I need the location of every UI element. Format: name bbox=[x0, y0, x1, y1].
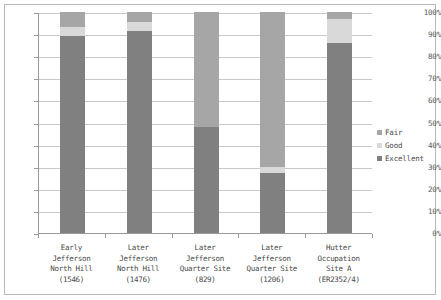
y-axis-tick-label: 90% bbox=[407, 31, 441, 39]
bar-segment-good bbox=[60, 27, 85, 36]
bar-stack bbox=[127, 12, 152, 233]
bar-segment-fair bbox=[327, 12, 352, 19]
bar-stack bbox=[194, 12, 219, 233]
legend-item[interactable]: Fair bbox=[377, 126, 435, 139]
y-axis-tick-label: 20% bbox=[407, 186, 441, 194]
y-axis-tick-label: 100% bbox=[407, 9, 441, 17]
x-axis-tick-mark bbox=[238, 234, 239, 238]
bar-segment-fair bbox=[127, 12, 152, 22]
chart-container: 100%90%80%70%60%50%40%30%20%10%0% Early … bbox=[0, 0, 441, 300]
x-axis-tick-mark bbox=[372, 234, 373, 238]
legend-swatch-icon bbox=[377, 130, 382, 135]
legend-swatch-icon bbox=[377, 156, 382, 161]
bar-segment-good bbox=[327, 19, 352, 43]
bar-segment-good bbox=[260, 167, 285, 174]
legend-label: Fair bbox=[385, 128, 402, 137]
bar-segment-excellent bbox=[60, 36, 85, 233]
bar-segment-fair bbox=[194, 12, 219, 127]
x-axis-category-label: Later Jefferson North Hill (1476) bbox=[105, 243, 172, 285]
bar-stack bbox=[327, 12, 352, 233]
y-axis-tick-label: 10% bbox=[407, 208, 441, 216]
bar-segment-fair bbox=[60, 12, 85, 27]
x-axis-tick-mark bbox=[172, 234, 173, 238]
bar-stack bbox=[60, 12, 85, 233]
y-axis-tick-label: 80% bbox=[407, 53, 441, 61]
bar-stack bbox=[260, 12, 285, 233]
legend-label: Excellent bbox=[385, 154, 424, 163]
y-axis-tick-label: 70% bbox=[407, 75, 441, 83]
bar-segment-good bbox=[127, 22, 152, 31]
bar-segment-excellent bbox=[327, 43, 352, 233]
y-axis-tick-label: 60% bbox=[407, 97, 441, 105]
x-axis-category-label: Later Jefferson Quarter Site (829) bbox=[172, 243, 239, 285]
x-axis-tick-mark bbox=[305, 234, 306, 238]
bar-segment-excellent bbox=[127, 31, 152, 233]
x-axis-category-label: Hutter Occupation Site A (ER2352/4) bbox=[305, 243, 372, 285]
x-axis-category-label: Early Jefferson North Hill (1546) bbox=[38, 243, 105, 285]
legend-label: Good bbox=[385, 141, 402, 150]
chart-legend: FairGoodExcellent bbox=[377, 126, 435, 165]
legend-item[interactable]: Excellent bbox=[377, 152, 435, 165]
x-axis-category-label: Later Jefferson Quarter Site (1206) bbox=[238, 243, 305, 285]
plot-area bbox=[38, 13, 372, 234]
y-axis-tick-label: 0% bbox=[407, 230, 441, 238]
bar-segment-excellent bbox=[260, 173, 285, 233]
x-axis-tick-mark bbox=[105, 234, 106, 238]
legend-item[interactable]: Good bbox=[377, 139, 435, 152]
legend-swatch-icon bbox=[377, 143, 382, 148]
bar-segment-fair bbox=[260, 12, 285, 167]
x-axis-tick-mark bbox=[38, 234, 39, 238]
bar-segment-excellent bbox=[194, 127, 219, 233]
